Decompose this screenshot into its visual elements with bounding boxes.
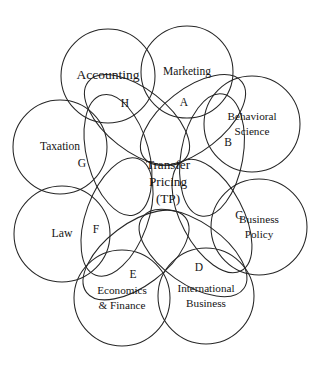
label-behavioral-science: BehavioralScience — [227, 110, 276, 137]
center-line-2: Pricing — [149, 174, 188, 189]
venn-diagram-canvas: Accounting Marketing BehavioralScience B… — [0, 0, 329, 372]
label-accounting: Accounting — [77, 67, 140, 82]
segment-letter-d: D — [195, 261, 203, 273]
segment-letter-g: G — [78, 157, 86, 169]
label-international-business: InternationalBusiness — [177, 282, 234, 309]
label-law: Law — [52, 226, 73, 240]
center-line-3: (TP) — [156, 191, 180, 206]
label-taxation: Taxation — [40, 140, 80, 152]
transfer-pricing-venn-diagram: Accounting Marketing BehavioralScience B… — [0, 0, 329, 372]
label-marketing: Marketing — [163, 65, 211, 78]
segment-letter-f: F — [93, 223, 99, 235]
label-business-policy: BusinessPolicy — [239, 213, 279, 240]
center-line-1: Transfer — [146, 157, 191, 172]
segment-letter-c: C — [235, 209, 243, 221]
segment-letter-e: E — [129, 268, 136, 280]
segment-letter-h: H — [121, 97, 129, 109]
ellipse-segment-b — [171, 89, 254, 222]
segment-letter-a: A — [180, 96, 189, 108]
segment-letter-b: B — [224, 136, 232, 148]
